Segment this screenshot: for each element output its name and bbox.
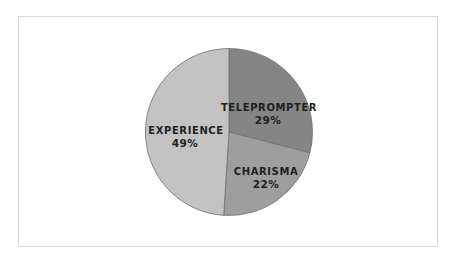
label-teleprompter-name: TELEPROMPTER bbox=[221, 102, 317, 113]
label-experience-value: 49% bbox=[172, 137, 198, 149]
label-experience-name: EXPERIENCE bbox=[148, 125, 224, 136]
pie-chart: TELEPROMPTER 29% CHARISMA 22% EXPERIENCE… bbox=[0, 0, 457, 262]
label-charisma-name: CHARISMA bbox=[234, 166, 299, 177]
label-teleprompter-value: 29% bbox=[255, 114, 281, 126]
label-charisma-value: 22% bbox=[253, 178, 279, 190]
